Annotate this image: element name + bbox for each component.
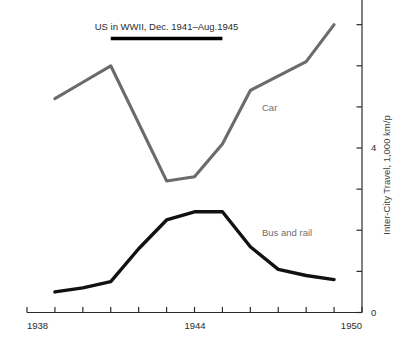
y-tick-label-4: 4 (371, 142, 376, 153)
inter-city-travel-line-chart: 1938 1944 1950 0 4 Inter-City Travel, 1,… (0, 0, 399, 339)
wwii-annotation-label: US in WWII, Dec. 1941–Aug.1945 (95, 21, 239, 32)
x-tick-label-1938: 1938 (27, 320, 48, 331)
y-axis-title: Inter-City Travel, 1,000 km/p (381, 115, 392, 234)
y-tick-label-0: 0 (371, 307, 376, 318)
chart-container: 1938 1944 1950 0 4 Inter-City Travel, 1,… (0, 0, 399, 339)
x-tick-label-1950: 1950 (341, 320, 362, 331)
series-label-car: Car (262, 102, 277, 113)
x-tick-label-1944: 1944 (184, 320, 205, 331)
series-label-bus-and-rail: Bus and rail (262, 227, 312, 238)
